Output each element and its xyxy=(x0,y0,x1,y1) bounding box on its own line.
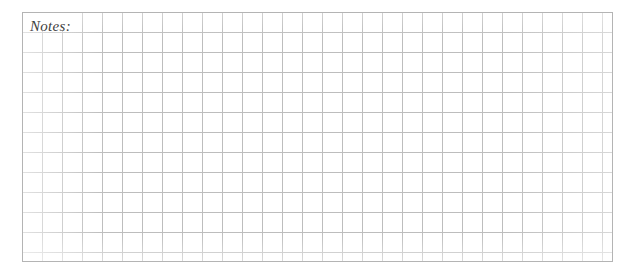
grid-lines xyxy=(22,12,613,262)
notes-label: Notes: xyxy=(30,17,71,35)
notes-grid-area[interactable] xyxy=(22,12,613,262)
notes-page: Notes: xyxy=(0,0,635,276)
